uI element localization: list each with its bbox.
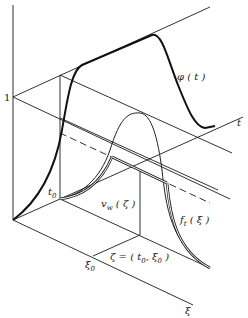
label-zeta: ζ = ( t0, ξ0 )	[110, 251, 169, 265]
bell-curve	[60, 113, 210, 268]
label-xi-axis: ξ	[185, 305, 191, 316]
t-axis-base	[13, 199, 60, 220]
mid-xi-line	[60, 118, 218, 190]
t0-top-xi-line	[60, 75, 232, 153]
xi-axis	[13, 220, 193, 305]
label-vw: vw ( ζ )	[101, 198, 136, 212]
t-axis	[60, 117, 243, 199]
label-one: 1	[4, 92, 10, 103]
label-phi: φ ( t )	[177, 71, 205, 82]
unit-level-xi-line	[13, 97, 230, 199]
phi-curve	[13, 35, 215, 220]
label-t-axis: t	[237, 117, 242, 128]
label-xi0: ξ0	[85, 259, 96, 273]
label-t0: t0	[48, 186, 57, 200]
label-ft: ft ( ξ )	[179, 214, 209, 228]
3d-diagram: 1 t ξ φ ( t ) t0 ξ0 vw ( ζ ) ft ( ξ ) ζ …	[0, 0, 248, 318]
